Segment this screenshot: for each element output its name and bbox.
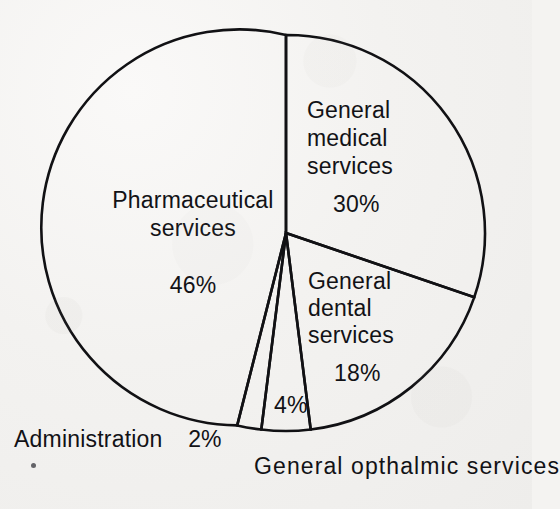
label-administration: Administration 2% [14, 425, 222, 453]
label-text: Administration [14, 426, 163, 452]
label-general-medical-services: General medical services 30% [307, 96, 393, 218]
label-line: Pharmaceutical [112, 187, 273, 213]
label-general-dental-services: General dental services 18% [308, 268, 394, 387]
value-administration: 2% [188, 426, 222, 452]
label-line: medical [307, 125, 388, 151]
label-line: services [150, 215, 236, 241]
label-line: dental [308, 295, 372, 321]
value-pharmaceutical-services: 46% [98, 271, 288, 299]
value-general-opthalmic-services: 4% [274, 391, 308, 419]
label-line: General [307, 97, 390, 123]
label-pharmaceutical-services: Pharmaceutical services 46% [98, 186, 288, 299]
label-line: General [308, 268, 391, 294]
scan-speck [31, 463, 36, 468]
label-general-opthalmic-services: General opthalmic services [254, 452, 560, 480]
label-line: services [307, 153, 393, 179]
label-line: services [308, 322, 394, 348]
value-general-dental-services: 18% [334, 360, 394, 387]
value-general-medical-services: 30% [333, 190, 393, 218]
